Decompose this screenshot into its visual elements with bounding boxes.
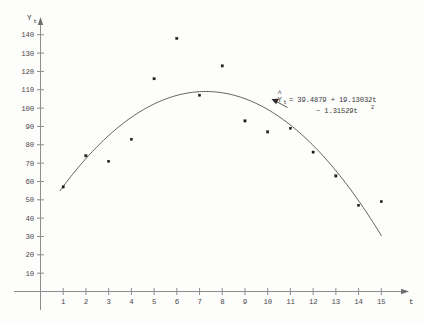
axes-group (14, 17, 409, 310)
data-point (153, 78, 155, 80)
data-points-group (62, 37, 382, 206)
y-axis-title-main: Y (27, 14, 32, 22)
data-point (62, 186, 64, 188)
data-point (108, 160, 110, 162)
equation-line-2: − 1.31529t (316, 107, 358, 115)
x-tick-label: 1 (61, 298, 66, 306)
data-point (357, 204, 359, 206)
y-tick-label: 60 (26, 178, 34, 186)
equation-line-1: = 39.4879 + 19.13032t (289, 96, 376, 104)
y-tick-label: 120 (21, 68, 34, 76)
x-tick-label: 3 (107, 298, 111, 306)
y-tick-label: 140 (21, 31, 34, 39)
x-tick-label: 7 (197, 298, 201, 306)
x-tick-label: 2 (84, 298, 88, 306)
y-axis-title-subscript: t (34, 19, 37, 25)
x-tick-label: 12 (309, 298, 317, 306)
x-tick-label: 15 (377, 298, 385, 306)
x-tick-label: 13 (332, 298, 340, 306)
data-point (244, 120, 246, 122)
y-tick-label: 130 (21, 50, 34, 58)
x-axis-arrowhead (401, 289, 409, 294)
data-point (221, 65, 223, 67)
y-tick-label: 10 (26, 270, 34, 278)
y-tick-label: 110 (21, 86, 34, 94)
y-tick-label: 70 (26, 160, 34, 168)
x-tick-label: 5 (152, 298, 156, 306)
y-tick-label: 30 (26, 233, 34, 241)
x-tick-label: 4 (129, 298, 134, 306)
x-tick-label: 8 (220, 298, 224, 306)
equation-annotation: ^ Y t = 39.4879 + 19.13032t − 1.31529t 2 (272, 90, 377, 115)
y-axis-title: Y t (27, 14, 37, 25)
y-tick-label: 80 (26, 141, 34, 149)
equation-line-2-exponent: 2 (371, 105, 374, 111)
y-tick-label: 50 (26, 196, 34, 204)
x-tick-label: 11 (286, 298, 295, 306)
data-point (130, 138, 132, 140)
y-hat-subscript: t (284, 100, 287, 106)
y-tick-label: 90 (26, 123, 34, 131)
data-point (198, 94, 200, 96)
data-point (176, 37, 178, 39)
data-point (312, 151, 314, 153)
x-tick-label: 6 (175, 298, 179, 306)
y-axis-arrowhead (38, 17, 43, 25)
chart-figure: 102030405060708090100110120130140 123456… (0, 0, 424, 324)
x-tick-label: 14 (354, 298, 363, 306)
x-axis-ticks: 123456789101112131415 (61, 288, 385, 306)
data-point (267, 131, 269, 133)
y-tick-label: 20 (26, 251, 34, 259)
y-tick-label: 100 (21, 105, 34, 113)
y-tick-label: 40 (26, 215, 34, 223)
x-axis-title: t (409, 298, 414, 306)
data-point (380, 200, 382, 202)
x-tick-label: 9 (243, 298, 247, 306)
data-point (335, 175, 337, 177)
scatter-plot-svg: 102030405060708090100110120130140 123456… (0, 0, 424, 324)
x-tick-label: 10 (263, 298, 271, 306)
data-point (289, 127, 291, 129)
data-point (85, 155, 87, 157)
